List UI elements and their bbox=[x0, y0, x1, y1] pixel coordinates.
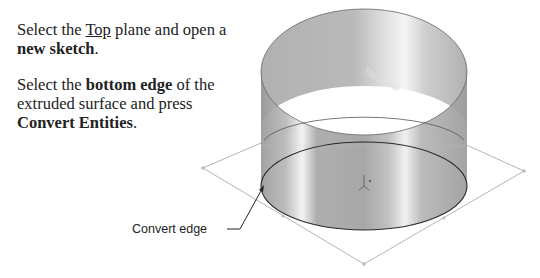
cylinder-figure: Top Plane bbox=[0, 0, 540, 278]
callout-arrow bbox=[227, 189, 262, 229]
callout-convert-edge: Convert edge bbox=[132, 222, 207, 236]
